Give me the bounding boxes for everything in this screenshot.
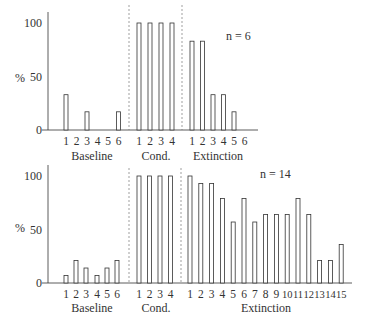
phase-label: Cond. — [141, 301, 170, 315]
x-tick-label: 3 — [84, 135, 90, 147]
x-tick-label: 11 — [293, 289, 303, 300]
y-tick-label: 50 — [30, 223, 42, 237]
x-tick-label: 10 — [282, 289, 293, 300]
bar — [339, 244, 343, 283]
x-tick-label: 15 — [336, 289, 347, 300]
x-tick-label: 1 — [136, 288, 142, 300]
x-tick-label: 1 — [63, 135, 69, 147]
y-axis-label: % — [15, 221, 25, 235]
x-tick-label: 3 — [83, 288, 89, 300]
bar — [210, 183, 214, 283]
phase-label: Extinction — [193, 149, 243, 163]
x-tick-label: 3 — [209, 288, 215, 300]
y-tick-label: 0 — [36, 276, 42, 290]
bar — [211, 95, 215, 130]
x-tick-label: 1 — [189, 135, 195, 147]
bar — [318, 261, 322, 283]
bar — [84, 268, 88, 283]
bar — [220, 198, 224, 283]
x-tick-label: 2 — [200, 135, 206, 147]
bar — [253, 222, 257, 283]
bar — [74, 261, 78, 283]
y-tick-label: 100 — [24, 169, 42, 183]
x-tick-label: 5 — [231, 135, 237, 147]
x-tick-label: 3 — [158, 135, 164, 147]
x-tick-label: 1 — [63, 288, 69, 300]
x-tick-label: 5 — [230, 288, 236, 300]
x-tick-label: 2 — [147, 288, 153, 300]
x-tick-label: 2 — [198, 288, 204, 300]
y-tick-label: 0 — [36, 123, 42, 137]
bar — [64, 276, 68, 283]
bar — [169, 176, 173, 283]
x-tick-label: 12 — [304, 289, 315, 300]
x-tick-label: 6 — [116, 135, 122, 147]
x-tick-label: 14 — [325, 289, 336, 300]
bar — [148, 23, 152, 130]
top-panel: 050100%123456Baseline1234Cond.123456Exti… — [15, 5, 258, 163]
bar — [231, 222, 235, 283]
bar — [242, 198, 246, 283]
bar — [117, 112, 121, 130]
bar — [95, 276, 99, 283]
x-tick-label: 8 — [263, 288, 269, 300]
phase-label: Extinction — [241, 301, 291, 315]
bar — [115, 261, 119, 283]
sample-size-annotation: n = 14 — [260, 167, 291, 181]
bar — [170, 23, 174, 130]
bar — [148, 176, 152, 283]
x-tick-label: 13 — [314, 289, 325, 300]
sample-size-annotation: n = 6 — [226, 29, 251, 43]
x-tick-label: 6 — [242, 135, 248, 147]
y-tick-label: 50 — [30, 70, 42, 84]
bar — [158, 176, 162, 283]
x-tick-label: 3 — [210, 135, 216, 147]
x-tick-label: 2 — [74, 135, 80, 147]
phase-label: Cond. — [141, 149, 170, 163]
phase-label: Baseline — [71, 301, 112, 315]
bar — [64, 95, 68, 130]
x-tick-label: 5 — [104, 288, 110, 300]
bottom-panel: 050100%123456Baseline1234Cond.1234567891… — [15, 165, 352, 315]
bar — [201, 41, 205, 130]
y-tick-label: 100 — [24, 16, 42, 30]
x-tick-label: 6 — [114, 288, 120, 300]
phase-label: Baseline — [71, 149, 112, 163]
bar — [199, 183, 203, 283]
bar — [274, 215, 278, 283]
x-tick-label: 4 — [94, 288, 100, 300]
x-tick-label: 7 — [252, 288, 258, 300]
chart-figure: 050100%123456Baseline1234Cond.123456Exti… — [0, 0, 372, 331]
x-tick-label: 4 — [168, 288, 174, 300]
x-tick-label: 4 — [220, 288, 226, 300]
bar — [296, 198, 300, 283]
bar — [137, 176, 141, 283]
bar — [328, 261, 332, 283]
bar — [285, 215, 289, 283]
bar — [85, 112, 89, 130]
bar — [307, 215, 311, 283]
bar — [232, 112, 236, 130]
x-tick-label: 3 — [157, 288, 163, 300]
x-tick-label: 1 — [136, 135, 142, 147]
x-tick-label: 4 — [169, 135, 175, 147]
x-tick-label: 5 — [105, 135, 111, 147]
x-tick-label: 9 — [274, 288, 280, 300]
x-tick-label: 4 — [95, 135, 101, 147]
x-tick-label: 6 — [241, 288, 247, 300]
bar — [188, 176, 192, 283]
x-tick-label: 2 — [73, 288, 79, 300]
bar — [264, 215, 268, 283]
bar — [105, 268, 109, 283]
bar — [159, 23, 163, 130]
bar — [137, 23, 141, 130]
bar — [190, 41, 194, 130]
x-tick-label: 4 — [221, 135, 227, 147]
y-axis-label: % — [15, 71, 25, 85]
x-tick-label: 2 — [147, 135, 153, 147]
bar — [222, 95, 226, 130]
x-tick-label: 1 — [187, 288, 193, 300]
